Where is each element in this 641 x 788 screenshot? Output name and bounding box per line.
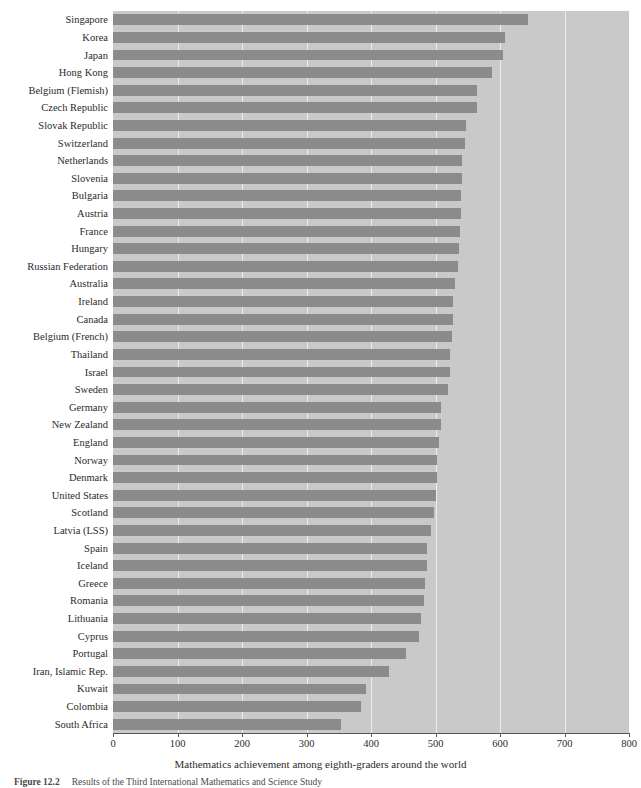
bar-row <box>113 367 629 378</box>
bar <box>113 666 389 677</box>
bar-row <box>113 50 629 61</box>
bar-row <box>113 173 629 184</box>
bar-row <box>113 314 629 325</box>
bar <box>113 243 459 254</box>
bar-row <box>113 402 629 413</box>
bar-row <box>113 120 629 131</box>
bar-row <box>113 261 629 272</box>
figure-caption-text <box>62 777 69 787</box>
bar-row <box>113 331 629 342</box>
bar <box>113 560 427 571</box>
bar-row <box>113 138 629 149</box>
bar-series <box>113 11 629 733</box>
category-label: Bulgaria <box>0 190 108 201</box>
x-tick-mark <box>113 733 114 737</box>
category-label: Iran, Islamic Rep. <box>0 666 108 677</box>
x-tick-label: 600 <box>492 738 508 750</box>
bar <box>113 278 455 289</box>
category-label: Norway <box>0 455 108 466</box>
category-label: United States <box>0 490 108 501</box>
category-label: Sweden <box>0 384 108 395</box>
bar <box>113 613 421 624</box>
category-label: Israel <box>0 367 108 378</box>
category-label: Belgium (Flemish) <box>0 85 108 96</box>
figure-caption: Figure 12.2 Results of the Third Interna… <box>14 777 634 788</box>
bar-row <box>113 578 629 589</box>
bar-row <box>113 701 629 712</box>
bar-row <box>113 525 629 536</box>
bar-row <box>113 595 629 606</box>
category-label: Cyprus <box>0 631 108 642</box>
category-label: Canada <box>0 314 108 325</box>
category-label: Korea <box>0 32 108 43</box>
bar <box>113 85 477 96</box>
x-tick-mark <box>436 733 437 737</box>
bar-row <box>113 243 629 254</box>
bar <box>113 684 366 695</box>
category-label: Netherlands <box>0 155 108 166</box>
category-axis-labels: SingaporeKoreaJapanHong KongBelgium (Fle… <box>0 11 108 733</box>
category-label: Romania <box>0 595 108 606</box>
bar-row <box>113 419 629 430</box>
bar-row <box>113 155 629 166</box>
x-tick-mark <box>307 733 308 737</box>
category-label: Denmark <box>0 472 108 483</box>
bar-row <box>113 384 629 395</box>
category-label: Thailand <box>0 349 108 360</box>
bar <box>113 595 424 606</box>
bar-row <box>113 190 629 201</box>
category-label: Hungary <box>0 243 108 254</box>
bar <box>113 67 492 78</box>
bar <box>113 14 528 25</box>
category-label: Colombia <box>0 701 108 712</box>
category-label: Singapore <box>0 14 108 25</box>
category-label: England <box>0 437 108 448</box>
category-label: Japan <box>0 50 108 61</box>
x-tick-mark <box>242 733 243 737</box>
bar <box>113 490 436 501</box>
category-label: Ireland <box>0 296 108 307</box>
x-tick-label: 400 <box>363 738 379 750</box>
category-label: Portugal <box>0 648 108 659</box>
bar-row <box>113 14 629 25</box>
bar <box>113 631 419 642</box>
x-tick-label: 0 <box>110 738 115 750</box>
category-label: Iceland <box>0 560 108 571</box>
category-label: Hong Kong <box>0 67 108 78</box>
bar-row <box>113 719 629 730</box>
bar-row <box>113 648 629 659</box>
bar-row <box>113 32 629 43</box>
category-label: Czech Republic <box>0 102 108 113</box>
bar <box>113 226 460 237</box>
x-tick-mark <box>178 733 179 737</box>
bar <box>113 507 434 518</box>
bar-row <box>113 631 629 642</box>
x-tick-mark <box>629 733 630 737</box>
x-tick-label: 700 <box>557 738 573 750</box>
bar <box>113 261 458 272</box>
x-tick-mark <box>500 733 501 737</box>
x-tick-label: 500 <box>428 738 444 750</box>
bar-row <box>113 472 629 483</box>
bar <box>113 367 450 378</box>
bar <box>113 296 453 307</box>
category-label: Kuwait <box>0 683 108 694</box>
bar-row <box>113 208 629 219</box>
bar-row <box>113 543 629 554</box>
category-label: Scotland <box>0 507 108 518</box>
bar <box>113 578 425 589</box>
figure-caption-body: Results of the Third International Mathe… <box>72 777 322 787</box>
bar <box>113 437 439 448</box>
bar <box>113 208 461 219</box>
category-label: Latvia (LSS) <box>0 525 108 536</box>
bar-row <box>113 507 629 518</box>
bar <box>113 120 466 131</box>
bar <box>113 50 503 61</box>
bar-row <box>113 85 629 96</box>
x-axis-title: Mathematics achievement among eighth-gra… <box>0 758 641 770</box>
category-label: Switzerland <box>0 138 108 149</box>
figure-caption-label: Figure 12.2 <box>14 777 60 787</box>
x-tick-label: 800 <box>621 738 637 750</box>
category-label: New Zealand <box>0 419 108 430</box>
bar-row <box>113 67 629 78</box>
